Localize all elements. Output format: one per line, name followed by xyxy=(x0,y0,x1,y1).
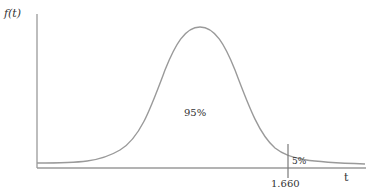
main-area-label: 95% xyxy=(184,107,206,118)
density-curve xyxy=(37,27,365,164)
x-axis-label: t xyxy=(344,171,348,184)
density-chart xyxy=(0,0,380,196)
y-axis-label: f(t) xyxy=(4,7,21,20)
tail-area-label: 5% xyxy=(292,156,306,166)
critical-value-label: 1.660 xyxy=(271,178,300,189)
